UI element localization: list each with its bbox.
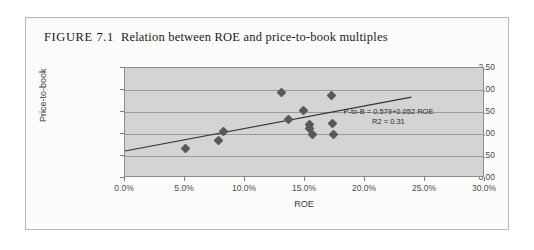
x-tick-mark	[364, 177, 365, 181]
x-tick-label: 20.0%	[352, 183, 376, 193]
x-tick-label: 5.0%	[174, 183, 193, 193]
x-tick-mark	[184, 177, 185, 181]
figure-caption: FIGURE 7.1Relation between ROE and price…	[44, 30, 388, 45]
x-tick-mark	[244, 177, 245, 181]
figure-label: FIGURE 7.1	[44, 30, 114, 44]
chart: Price-to-book ROE 0.000.501.001.502.002.…	[40, 56, 495, 222]
x-tick-mark	[304, 177, 305, 181]
figure-title: Relation between ROE and price-to-book m…	[121, 30, 388, 44]
x-tick-mark	[424, 177, 425, 181]
x-tick-label: 10.0%	[232, 183, 256, 193]
regression-equation: P-to-B = 0.579+0.052 ROE	[343, 107, 433, 117]
figure-box: FIGURE 7.1Relation between ROE and price…	[25, 17, 509, 230]
x-tick-label: 30.0%	[472, 183, 496, 193]
x-tick-label: 15.0%	[292, 183, 316, 193]
x-axis-label: ROE	[124, 199, 484, 209]
r-squared-value: R2 = 0.31	[343, 117, 433, 127]
x-tick-mark	[484, 177, 485, 181]
y-axis-label: Price-to-book	[38, 68, 48, 122]
x-tick-label: 25.0%	[412, 183, 436, 193]
regression-annotation: P-to-B = 0.579+0.052 ROE R2 = 0.31	[343, 107, 433, 127]
plot-area: P-to-B = 0.579+0.052 ROE R2 = 0.31	[124, 67, 484, 177]
x-tick-mark	[124, 177, 125, 181]
x-tick-label: 0.0%	[114, 183, 133, 193]
